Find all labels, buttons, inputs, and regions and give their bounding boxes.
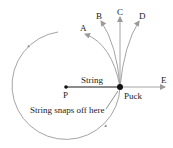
trajectory-b [101,21,120,87]
label-c: C [117,7,123,17]
path-direction-arrow-icon [104,124,107,127]
label-p: P [63,90,68,100]
pivot-point-dot [64,85,68,89]
trajectory-d [120,21,139,87]
label-d: D [139,11,146,21]
label-b: B [96,11,102,21]
label-string: String [81,75,104,85]
label-a: A [80,23,87,33]
label-snap: String snaps off here [30,105,105,115]
puck-diagram: A B C D E P String Puck String snaps off… [0,0,173,148]
label-puck: Puck [124,91,143,101]
puck-dot [117,84,123,90]
label-e: E [161,75,167,85]
